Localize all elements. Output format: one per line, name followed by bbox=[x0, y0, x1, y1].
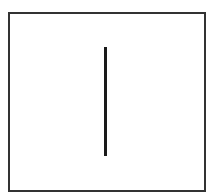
vertical-line bbox=[104, 47, 107, 156]
diagram-frame bbox=[8, 12, 206, 192]
